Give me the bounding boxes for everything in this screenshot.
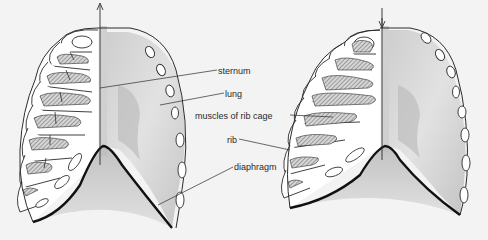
rib-cage-left [17, 3, 186, 228]
label-lung: lung [225, 89, 242, 99]
label-muscles-of-rib-cage: muscles of rib cage [195, 111, 273, 121]
leader-rib [239, 139, 290, 150]
label-rib: rib [227, 135, 237, 145]
label-diaphragm: diaphragm [234, 162, 277, 172]
rib-cage-right [281, 8, 470, 215]
label-sternum: sternum [218, 66, 251, 76]
